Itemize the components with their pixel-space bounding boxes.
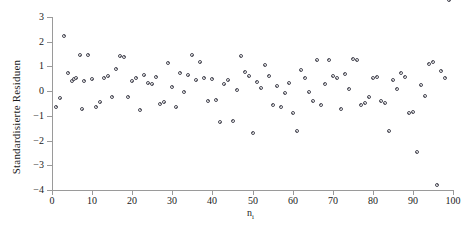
data-point xyxy=(231,119,235,123)
data-point xyxy=(295,129,299,133)
data-point xyxy=(134,76,138,80)
data-point xyxy=(54,105,58,109)
data-point xyxy=(162,100,166,104)
data-point xyxy=(431,60,435,64)
y-axis-tick-label-text: 0 xyxy=(22,86,44,96)
x-axis-tick-label: 80 xyxy=(358,196,388,206)
y-axis-tick-label-text: −3 xyxy=(22,160,44,170)
plot-area: Standardisierte Residuen ni 3210−1−2−3−4… xyxy=(0,0,474,234)
x-axis-tick-label: 70 xyxy=(318,196,348,206)
data-point xyxy=(355,58,359,62)
y-axis-tick xyxy=(47,116,52,117)
data-point xyxy=(214,98,218,102)
y-axis-tick xyxy=(47,91,52,92)
data-point xyxy=(255,80,259,84)
data-point xyxy=(94,105,98,109)
y-axis-tick xyxy=(47,66,52,67)
x-axis-label: ni xyxy=(247,207,254,221)
data-point xyxy=(415,150,419,154)
data-point xyxy=(142,73,146,77)
data-point xyxy=(122,55,126,59)
data-point xyxy=(243,70,247,74)
data-point xyxy=(291,111,295,115)
data-point xyxy=(279,105,283,109)
x-axis-tick-label: 40 xyxy=(197,196,227,206)
data-point xyxy=(198,60,202,64)
data-point xyxy=(106,74,110,78)
data-point xyxy=(435,183,439,187)
y-axis-tick-label: −4 xyxy=(20,185,44,195)
data-point xyxy=(315,58,319,62)
data-point xyxy=(74,76,78,80)
data-point xyxy=(275,84,279,88)
y-axis-tick-label-text: 2 xyxy=(22,37,44,47)
data-point xyxy=(263,63,267,67)
y-axis-tick-label-text: 1 xyxy=(22,61,44,71)
data-point xyxy=(98,100,102,104)
data-point xyxy=(222,82,226,86)
data-point xyxy=(239,54,243,58)
x-axis-tick-label: 20 xyxy=(117,196,147,206)
data-point xyxy=(259,86,263,90)
y-axis-tick-label-text: −2 xyxy=(22,136,44,146)
y-axis-tick-label: 0 xyxy=(20,86,44,96)
data-point xyxy=(339,107,343,111)
data-point xyxy=(399,71,403,75)
y-axis-line xyxy=(52,17,53,191)
y-axis-tick-label: 2 xyxy=(20,37,44,47)
data-point xyxy=(194,78,198,82)
data-point xyxy=(226,78,230,82)
y-axis-tick xyxy=(47,141,52,142)
data-point xyxy=(186,73,190,77)
data-point xyxy=(126,95,130,99)
x-axis-tick-label: 60 xyxy=(278,196,308,206)
x-axis-tick-label: 0 xyxy=(37,196,67,206)
y-axis-tick-label: −3 xyxy=(20,160,44,170)
data-point xyxy=(86,53,90,57)
data-point xyxy=(299,68,303,72)
x-axis-tick-label: 10 xyxy=(77,196,107,206)
data-point xyxy=(138,108,142,112)
data-point xyxy=(130,79,134,83)
data-point xyxy=(110,95,114,99)
data-point xyxy=(347,87,351,91)
y-axis-tick-label-text: 3 xyxy=(22,12,44,22)
data-point xyxy=(383,101,387,105)
data-point xyxy=(267,74,271,78)
x-axis-label-subscript: i xyxy=(252,213,254,221)
y-axis-tick xyxy=(47,42,52,43)
data-point xyxy=(439,69,443,73)
data-point xyxy=(311,99,315,103)
data-point xyxy=(170,85,174,89)
data-point xyxy=(150,82,154,86)
data-point xyxy=(166,61,170,65)
residual-plot-figure: Standardisierte Residuen ni 3210−1−2−3−4… xyxy=(0,0,474,234)
x-axis-tick-label: 90 xyxy=(398,196,428,206)
data-point xyxy=(82,79,86,83)
data-point xyxy=(387,129,391,133)
data-point xyxy=(90,77,94,81)
data-point xyxy=(202,76,206,80)
data-point xyxy=(114,67,118,71)
y-axis-tick xyxy=(47,17,52,18)
data-point xyxy=(303,76,307,80)
data-point xyxy=(182,90,186,94)
data-point xyxy=(411,110,415,114)
data-point xyxy=(66,71,70,75)
data-point xyxy=(335,76,339,80)
data-point xyxy=(343,72,347,76)
data-point xyxy=(419,83,423,87)
data-point xyxy=(62,34,66,38)
data-point xyxy=(323,82,327,86)
x-axis-tick-label: 100 xyxy=(438,196,468,206)
data-point xyxy=(80,107,84,111)
data-point xyxy=(174,105,178,109)
data-point xyxy=(271,103,275,107)
data-point xyxy=(375,75,379,79)
data-point xyxy=(363,101,367,105)
y-axis-tick-label: 3 xyxy=(20,12,44,22)
data-point xyxy=(443,76,447,80)
data-point xyxy=(403,75,407,79)
data-point xyxy=(307,90,311,94)
data-point xyxy=(206,99,210,103)
